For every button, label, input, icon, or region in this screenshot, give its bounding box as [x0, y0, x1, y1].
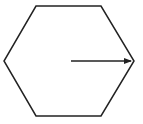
hexagon-diagram	[0, 0, 143, 124]
